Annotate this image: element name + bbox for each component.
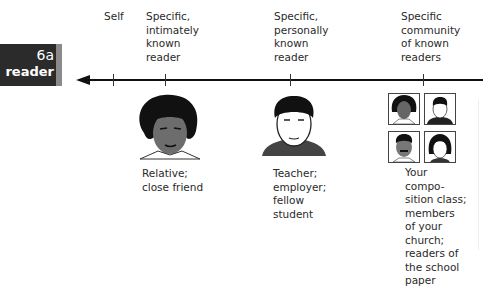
girl-portrait-icon	[425, 132, 455, 162]
tab-edge-decoration	[56, 44, 62, 86]
caption-community: Your compo- sition class; members of you…	[405, 166, 466, 288]
woman-portrait-icon	[389, 94, 419, 124]
caption-teacher: Teacher; employer; fellow student	[273, 167, 326, 221]
teacher-portrait-icon	[258, 94, 330, 156]
community-portrait-3	[388, 131, 420, 163]
page-edge	[478, 100, 479, 250]
community-portrait-2	[424, 93, 456, 125]
tick-community	[423, 74, 424, 86]
young-man-portrait-icon	[425, 94, 455, 124]
tick-personal	[290, 74, 291, 86]
relative-portrait-icon	[130, 93, 210, 161]
man-mustache-portrait-icon	[389, 132, 419, 162]
tick-self	[113, 74, 114, 86]
section-title: reader	[5, 63, 54, 81]
section-number: 6a	[37, 46, 55, 64]
scale-label-self: Self	[104, 10, 124, 24]
community-portrait-4	[424, 131, 456, 163]
scale-label-personal: Specific, personally known reader	[274, 10, 328, 64]
scale-label-intimate: Specific, intimately known reader	[146, 10, 199, 64]
scale-label-community: Specific community of known readers	[401, 10, 460, 64]
tick-intimate	[165, 74, 166, 86]
section-tab: 6a reader	[0, 44, 62, 86]
community-portrait-1	[388, 93, 420, 125]
caption-relative: Relative; close friend	[142, 167, 203, 194]
